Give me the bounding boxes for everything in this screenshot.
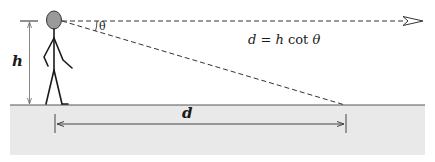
diagram-canvas: h θ d d = h cot θ — [0, 0, 435, 162]
angle-arc — [96, 21, 98, 31]
right-arm — [54, 38, 72, 68]
angle-label: θ — [99, 21, 106, 32]
diagram-svg — [0, 0, 435, 162]
distance-label: d — [182, 106, 193, 121]
person-figure — [44, 11, 72, 104]
height-label: h — [12, 54, 23, 69]
right-leg — [54, 70, 62, 104]
formula-label: d = h cot θ — [248, 33, 320, 46]
formula-equals: = — [256, 32, 275, 47]
left-leg — [46, 70, 54, 104]
left-arm — [44, 38, 54, 66]
ground — [10, 105, 425, 155]
head — [47, 11, 62, 29]
formula-h: h — [276, 32, 284, 47]
formula-cot: cot — [284, 32, 313, 47]
formula-theta: θ — [312, 32, 320, 47]
eye-level-arrowhead-icon — [403, 17, 423, 26]
